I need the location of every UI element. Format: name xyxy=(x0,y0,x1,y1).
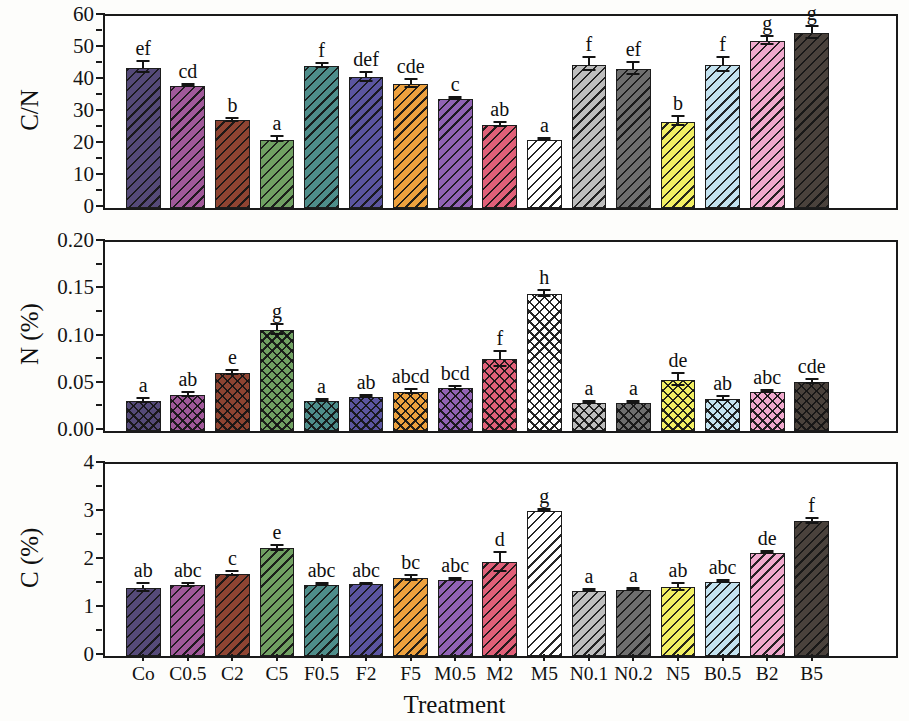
bar[interactable] xyxy=(616,69,651,208)
bar[interactable] xyxy=(572,403,607,431)
bar[interactable] xyxy=(527,294,562,431)
bar-group[interactable]: d xyxy=(482,464,517,656)
bar[interactable] xyxy=(260,548,295,656)
x-tick-mark xyxy=(632,654,634,661)
bar-group[interactable]: cd xyxy=(170,16,205,208)
bar[interactable] xyxy=(349,397,384,431)
bar[interactable] xyxy=(126,401,161,431)
bar[interactable] xyxy=(393,578,428,656)
bar-group[interactable]: a xyxy=(616,242,651,431)
bar[interactable] xyxy=(393,84,428,208)
bar[interactable] xyxy=(661,380,696,431)
x-tick-label: F5 xyxy=(400,664,421,684)
bar-group[interactable]: abc xyxy=(750,242,785,431)
bar-group[interactable]: b xyxy=(661,16,696,208)
bar[interactable] xyxy=(705,582,740,656)
bar[interactable] xyxy=(126,68,161,208)
bar[interactable] xyxy=(616,590,651,656)
bar-group[interactable]: ab xyxy=(661,464,696,656)
bar[interactable] xyxy=(750,553,785,656)
bar-group[interactable]: abcd xyxy=(393,242,428,431)
bar-group[interactable]: a xyxy=(616,464,651,656)
bar-group[interactable]: g xyxy=(260,242,295,431)
bar-group[interactable]: ab xyxy=(126,464,161,656)
bar-group[interactable]: bcd xyxy=(438,242,473,431)
bar-group[interactable]: de xyxy=(750,464,785,656)
bar-group[interactable]: g xyxy=(794,16,829,208)
bar[interactable] xyxy=(393,392,428,431)
bar[interactable] xyxy=(794,521,829,656)
bar[interactable] xyxy=(482,562,517,656)
bar[interactable] xyxy=(482,359,517,431)
bar-group[interactable]: f xyxy=(482,242,517,431)
bar[interactable] xyxy=(215,373,250,431)
bar-group[interactable]: a xyxy=(126,242,161,431)
bar-group[interactable]: abc xyxy=(304,464,339,656)
bar-group[interactable]: abc xyxy=(170,464,205,656)
bar[interactable] xyxy=(705,399,740,431)
bar-group[interactable]: g xyxy=(527,464,562,656)
bar-group[interactable]: ef xyxy=(126,16,161,208)
bar-group[interactable]: b xyxy=(215,16,250,208)
bar-group[interactable]: g xyxy=(750,16,785,208)
bar-group[interactable]: abc xyxy=(705,464,740,656)
bar-group[interactable]: f xyxy=(794,464,829,656)
bar[interactable] xyxy=(349,584,384,656)
bar[interactable] xyxy=(438,580,473,656)
bar-group[interactable]: cde xyxy=(393,16,428,208)
bar[interactable] xyxy=(126,588,161,656)
bar[interactable] xyxy=(794,33,829,208)
bar-group[interactable]: ab xyxy=(705,242,740,431)
bar-group[interactable]: de xyxy=(661,242,696,431)
bar-group[interactable]: c xyxy=(438,16,473,208)
bar-group[interactable]: a xyxy=(572,242,607,431)
bar[interactable] xyxy=(661,587,696,656)
bar[interactable] xyxy=(170,395,205,431)
bar-group[interactable]: abc xyxy=(438,464,473,656)
bar-group[interactable]: f xyxy=(572,16,607,208)
bar-group[interactable]: cde xyxy=(794,242,829,431)
bar[interactable] xyxy=(304,585,339,656)
bar[interactable] xyxy=(438,99,473,208)
bar-group[interactable]: ef xyxy=(616,16,651,208)
bar-group[interactable]: a xyxy=(527,16,562,208)
bar-group[interactable]: f xyxy=(304,16,339,208)
bar-group[interactable]: a xyxy=(572,464,607,656)
bar-group[interactable]: ab xyxy=(170,242,205,431)
bar-group[interactable]: a xyxy=(260,16,295,208)
bar[interactable] xyxy=(572,65,607,208)
bar-group[interactable]: c xyxy=(215,464,250,656)
bar-group[interactable]: abc xyxy=(349,464,384,656)
bar-group[interactable]: f xyxy=(705,16,740,208)
bar[interactable] xyxy=(349,77,384,208)
bar[interactable] xyxy=(260,140,295,208)
bar[interactable] xyxy=(527,140,562,208)
bar[interactable] xyxy=(572,591,607,656)
bar-group[interactable]: h xyxy=(527,242,562,431)
bar-group[interactable]: a xyxy=(304,242,339,431)
bar[interactable] xyxy=(482,125,517,208)
bar-group[interactable]: e xyxy=(215,242,250,431)
bar[interactable] xyxy=(438,388,473,431)
bar[interactable] xyxy=(260,330,295,431)
bar[interactable] xyxy=(705,65,740,208)
bar[interactable] xyxy=(794,382,829,431)
y-tick-mark-minor xyxy=(96,93,102,95)
bar-group[interactable]: ab xyxy=(482,16,517,208)
bar[interactable] xyxy=(661,122,696,208)
bar[interactable] xyxy=(304,66,339,208)
bar[interactable] xyxy=(616,403,651,431)
bar-group[interactable]: ab xyxy=(349,242,384,431)
bar[interactable] xyxy=(170,86,205,208)
bar[interactable] xyxy=(750,41,785,208)
bar[interactable] xyxy=(304,401,339,431)
bar[interactable] xyxy=(215,120,250,208)
bar-group[interactable]: e xyxy=(260,464,295,656)
x-tick-mark xyxy=(588,654,590,661)
bar[interactable] xyxy=(750,392,785,431)
bar[interactable] xyxy=(170,585,205,656)
bar-group[interactable]: def xyxy=(349,16,384,208)
bar[interactable] xyxy=(215,574,250,656)
bar[interactable] xyxy=(527,511,562,656)
bar-group[interactable]: bc xyxy=(393,464,428,656)
